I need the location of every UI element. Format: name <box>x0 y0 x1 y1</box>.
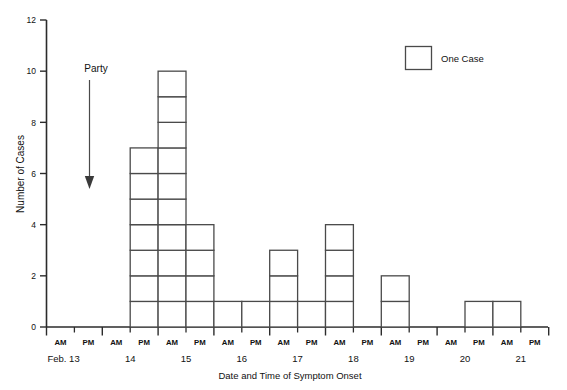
x-day-label: 19 <box>404 353 415 364</box>
case-cell <box>186 250 214 276</box>
x-day-label: 15 <box>181 353 192 364</box>
case-cell <box>326 276 354 302</box>
case-cell <box>130 174 158 200</box>
case-cell <box>465 301 493 327</box>
party-arrow-head <box>85 176 94 189</box>
case-cell <box>158 276 186 302</box>
x-axis-day-labels: 131415161718192021 <box>69 353 526 364</box>
case-cell <box>493 301 521 327</box>
x-day-label: 13 <box>69 353 80 364</box>
case-cell <box>158 71 186 97</box>
x-ampm-label: AM <box>389 338 401 347</box>
x-ampm-label: PM <box>82 338 94 347</box>
party-annotation: Party <box>84 63 107 189</box>
y-axis-tick-labels: 024681012 <box>27 15 37 332</box>
legend-label-one-case: One Case <box>441 53 484 64</box>
y-tick-label: 10 <box>27 66 37 76</box>
x-day-label: 16 <box>237 353 248 364</box>
legend: One Case <box>406 47 484 70</box>
case-cell <box>158 148 186 174</box>
case-cell <box>270 250 298 276</box>
x-axis-title: Date and Time of Symptom Onset <box>218 370 361 381</box>
case-cell <box>158 122 186 148</box>
y-tick-label: 4 <box>31 220 36 230</box>
chart-canvas: 024681012 Number of Cases AMPMAMPMAMPMAM… <box>0 0 567 390</box>
epidemic-curve-chart: 024681012 Number of Cases AMPMAMPMAMPMAM… <box>0 0 567 390</box>
case-cell <box>130 250 158 276</box>
x-ampm-label: AM <box>333 338 345 347</box>
month-label: Feb. <box>47 353 66 364</box>
case-cell <box>158 225 186 251</box>
case-cell <box>186 276 214 302</box>
case-cell <box>130 301 158 327</box>
case-cell <box>381 276 409 302</box>
x-axis-ampm-labels: AMPMAMPMAMPMAMPMAMPMAMPMAMPMAMPMAMPM <box>54 338 540 347</box>
legend-swatch-one-case <box>406 47 432 70</box>
x-ampm-label: PM <box>417 338 429 347</box>
x-ampm-label: PM <box>138 338 150 347</box>
y-tick-label: 2 <box>31 271 36 281</box>
case-cell <box>186 225 214 251</box>
case-cell <box>270 276 298 302</box>
case-cell-group <box>130 71 521 327</box>
x-ampm-label: AM <box>54 338 66 347</box>
x-ampm-label: AM <box>222 338 234 347</box>
y-tick-label: 6 <box>31 169 36 179</box>
case-cell <box>158 174 186 200</box>
case-cell <box>270 301 298 327</box>
x-ampm-label: AM <box>278 338 290 347</box>
y-axis-ticks <box>40 20 47 327</box>
y-tick-label: 8 <box>31 118 36 128</box>
y-axis-title: Number of Cases <box>15 135 26 213</box>
case-cell <box>158 301 186 327</box>
x-ampm-label: AM <box>501 338 513 347</box>
x-ampm-label: PM <box>250 338 262 347</box>
case-cell <box>130 276 158 302</box>
party-annotation-label: Party <box>84 63 107 74</box>
case-cell <box>130 148 158 174</box>
x-ampm-label: AM <box>166 338 178 347</box>
case-cell <box>242 301 270 327</box>
case-cell <box>326 250 354 276</box>
x-day-label: 20 <box>460 353 471 364</box>
x-ampm-label: PM <box>194 338 206 347</box>
y-tick-label: 12 <box>27 15 37 25</box>
x-ampm-label: PM <box>473 338 485 347</box>
case-cell <box>130 225 158 251</box>
x-ampm-label: PM <box>529 338 541 347</box>
x-day-label: 18 <box>348 353 359 364</box>
case-cell <box>214 301 242 327</box>
x-ampm-label: AM <box>445 338 457 347</box>
x-day-label: 21 <box>516 353 527 364</box>
case-cell <box>158 250 186 276</box>
case-cell <box>158 97 186 123</box>
case-cell <box>130 199 158 225</box>
case-cell <box>326 301 354 327</box>
x-ampm-label: PM <box>361 338 373 347</box>
x-day-label: 17 <box>292 353 303 364</box>
y-tick-label: 0 <box>31 322 36 332</box>
case-cell <box>381 301 409 327</box>
x-day-label: 14 <box>125 353 136 364</box>
x-ampm-label: AM <box>110 338 122 347</box>
x-ampm-label: PM <box>306 338 318 347</box>
case-cell <box>326 225 354 251</box>
case-cell <box>186 301 214 327</box>
case-cell <box>298 301 326 327</box>
x-axis-ticks <box>47 327 549 336</box>
case-cell <box>158 199 186 225</box>
